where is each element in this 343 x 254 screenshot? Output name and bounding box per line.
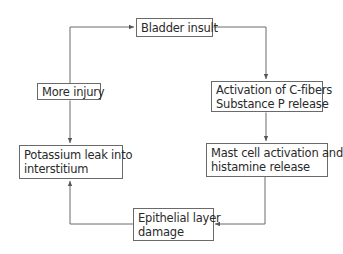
node-label: Potassium leak into bbox=[24, 148, 118, 162]
node-label: interstitium bbox=[24, 162, 118, 176]
node-label: Substance P release bbox=[216, 97, 318, 111]
node-label: Activation of C-fibers bbox=[216, 83, 318, 97]
node-label: damage bbox=[138, 225, 209, 239]
node-mast-cell-activation: Mast cell activation and histamine relea… bbox=[206, 143, 328, 177]
node-label: More injury bbox=[42, 85, 96, 99]
node-bladder-insult: Bladder insult bbox=[136, 18, 213, 37]
node-epithelial-damage: Epithelial layer damage bbox=[133, 208, 214, 241]
node-potassium-leak: Potassium leak into interstitium bbox=[19, 145, 123, 179]
node-label: Epithelial layer bbox=[138, 211, 209, 225]
node-label: Mast cell activation and bbox=[211, 146, 323, 160]
node-activation-c-fibers: Activation of C-fibers Substance P relea… bbox=[211, 81, 323, 112]
node-label: histamine release bbox=[211, 160, 323, 174]
node-label: Bladder insult bbox=[141, 21, 208, 35]
node-more-injury: More injury bbox=[37, 83, 101, 100]
